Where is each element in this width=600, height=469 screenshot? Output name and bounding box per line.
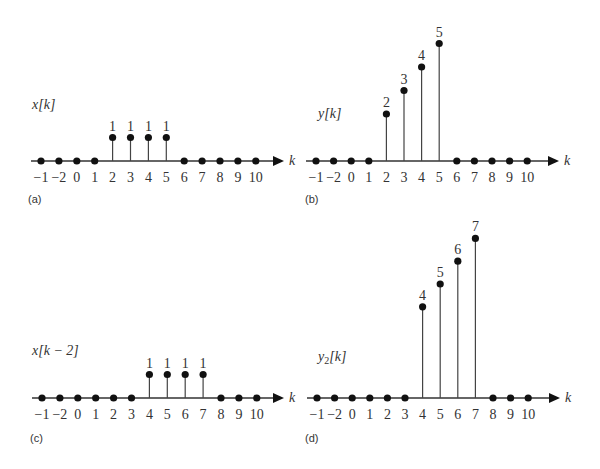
x-tick-label: 5 — [163, 170, 170, 185]
x-tick-label: 9 — [235, 407, 242, 422]
x-tick-label: 1 — [366, 407, 373, 422]
panel-b-y-k: ky[k](b)−1−20122334455678910 — [305, 25, 571, 206]
x-tick-label: 3 — [127, 170, 134, 185]
axis-arrow-icon — [273, 156, 284, 166]
sample-dot — [56, 394, 63, 401]
sample-dot — [383, 110, 390, 117]
sample-dot — [217, 394, 224, 401]
value-label: 1 — [127, 119, 134, 134]
x-tick-label: 10 — [521, 407, 535, 422]
sample-dot — [252, 157, 259, 164]
sample-dot — [418, 63, 425, 70]
x-tick-label: 6 — [182, 407, 189, 422]
value-label: 1 — [109, 119, 116, 134]
sample-dot — [524, 157, 531, 164]
panel-label: (a) — [28, 193, 41, 205]
x-tick-label: −1 — [34, 170, 49, 185]
x-tick-label: 6 — [454, 407, 461, 422]
x-axis-label: k — [289, 153, 296, 168]
sample-dot — [506, 157, 513, 164]
sample-dot — [366, 394, 373, 401]
signal-label: x[k − 2] — [31, 343, 79, 358]
x-axis-label: k — [564, 153, 571, 168]
sample-dot — [164, 371, 171, 378]
sample-dot — [384, 394, 391, 401]
sample-dot — [181, 157, 188, 164]
x-tick-label: 7 — [471, 170, 478, 185]
x-tick-label: 3 — [402, 407, 409, 422]
value-label: 1 — [164, 356, 171, 371]
x-tick-label: 2 — [384, 407, 391, 422]
x-tick-label: 4 — [145, 170, 152, 185]
x-tick-label: 0 — [349, 407, 356, 422]
x-tick-label: 4 — [418, 170, 425, 185]
x-tick-label: 10 — [520, 170, 534, 185]
value-label: 3 — [401, 72, 408, 87]
x-tick-label: 6 — [181, 170, 188, 185]
x-tick-label: 4 — [146, 407, 153, 422]
x-tick-label: 9 — [234, 170, 241, 185]
sample-dot — [109, 134, 116, 141]
sample-dot — [38, 394, 45, 401]
sample-dot — [489, 394, 496, 401]
x-tick-label: 8 — [490, 407, 497, 422]
x-tick-label: 1 — [91, 170, 98, 185]
sample-dot — [471, 157, 478, 164]
sample-dot — [128, 394, 135, 401]
x-tick-label: 0 — [348, 170, 355, 185]
x-tick-label: 2 — [109, 170, 116, 185]
x-tick-label: −2 — [327, 407, 342, 422]
axis-arrow-icon — [273, 393, 284, 403]
x-tick-label: 7 — [472, 407, 479, 422]
sample-dot — [74, 394, 81, 401]
sample-dot — [199, 157, 206, 164]
x-tick-label: 5 — [164, 407, 171, 422]
x-tick-label: 5 — [437, 407, 444, 422]
x-tick-label: 4 — [419, 407, 426, 422]
x-tick-label: 8 — [218, 407, 225, 422]
value-label: 1 — [182, 356, 189, 371]
panel-label: (d) — [305, 432, 318, 444]
x-axis-label: k — [289, 390, 296, 405]
sample-dot — [200, 371, 207, 378]
panel-label: (b) — [305, 193, 318, 205]
sample-dot — [234, 157, 241, 164]
sample-dot — [127, 134, 134, 141]
panel-label: (c) — [30, 432, 43, 444]
x-axis-label: k — [565, 390, 572, 405]
sample-dot — [313, 394, 320, 401]
sample-dot — [400, 87, 407, 94]
x-tick-label: 9 — [507, 407, 514, 422]
sample-dot — [453, 157, 460, 164]
axis-arrow-icon — [549, 393, 560, 403]
sample-dot — [331, 394, 338, 401]
stem-plots-figure: kx[k](a)−1−20112131415678910 ky[k](b)−1−… — [0, 0, 600, 469]
sample-dot — [436, 40, 443, 47]
sample-dot — [146, 371, 153, 378]
x-tick-label: 10 — [249, 170, 263, 185]
x-tick-label: −2 — [326, 170, 341, 185]
sample-dot — [419, 303, 426, 310]
sample-dot — [365, 157, 372, 164]
x-tick-label: 8 — [217, 170, 224, 185]
x-tick-label: 0 — [74, 407, 81, 422]
x-tick-label: 7 — [199, 170, 206, 185]
sample-dot — [253, 394, 260, 401]
signal-label: y[k] — [316, 106, 341, 121]
x-tick-label: 2 — [110, 407, 117, 422]
sample-dot — [55, 157, 62, 164]
value-label: 4 — [418, 48, 425, 63]
sample-dot — [348, 157, 355, 164]
x-tick-label: 2 — [383, 170, 390, 185]
sample-dot — [437, 280, 444, 287]
x-tick-label: 3 — [401, 170, 408, 185]
sample-dot — [182, 371, 189, 378]
sample-dot — [472, 235, 479, 242]
sample-dot — [401, 394, 408, 401]
x-tick-label: 3 — [128, 407, 135, 422]
x-tick-label: 1 — [365, 170, 372, 185]
x-tick-label: −1 — [35, 407, 50, 422]
value-label: 6 — [454, 242, 461, 257]
x-tick-label: 1 — [92, 407, 99, 422]
x-tick-label: 10 — [250, 407, 264, 422]
